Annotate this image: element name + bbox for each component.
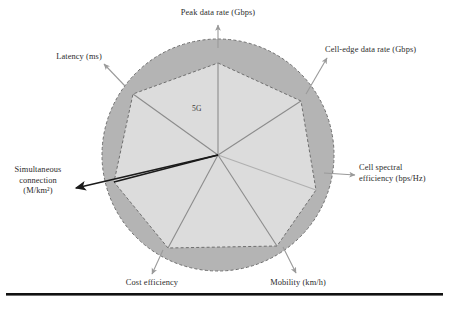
arrow-mobility [283,247,296,273]
arrow-cell-edge-data-rate [306,58,327,94]
axis-label-cell-edge-data-rate-line1: Cell-edge data rate (Gbps) [325,45,416,54]
axis-label-simultaneous-connection-line2: connection [2,176,74,187]
axis-label-cost-efficiency: Cost efficiency [92,278,212,289]
arrow-latency [104,64,125,86]
axis-label-simultaneous-connection-line3: (M/km²) [2,186,74,197]
footer-rule [6,293,443,296]
axis-label-mobility-line1: Mobility (km/h) [270,278,326,287]
axis-label-simultaneous-connection-line1: Simultaneous [2,165,74,176]
axis-label-peak-data-rate-line1: Peak data rate (Gbps) [181,8,255,17]
axis-label-cell-spectral-efficiency-line2: efficiency (bps/Hz) [359,174,449,185]
axis-label-latency: Latency (ms) [32,52,126,63]
axis-label-cost-efficiency-line1: Cost efficiency [126,278,178,287]
axis-label-latency-line1: Latency (ms) [56,52,102,61]
series-label-5g: 5G [192,104,202,113]
axis-label-cell-spectral-efficiency-line1: Cell spectral [359,163,449,174]
axis-label-mobility: Mobility (km/h) [238,278,358,289]
axis-label-cell-edge-data-rate: Cell-edge data rate (Gbps) [325,45,449,56]
axis-label-simultaneous-connection: Simultaneous connection (M/km²) [2,165,74,197]
axis-label-peak-data-rate: Peak data rate (Gbps) [138,8,298,19]
radar-chart-figure: Peak data rate (Gbps) Cell-edge data rat… [0,0,449,310]
axis-label-cell-spectral-efficiency: Cell spectral efficiency (bps/Hz) [359,163,449,184]
